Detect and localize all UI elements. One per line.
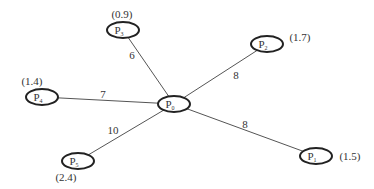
nodes-group: P0P1P2P3P4P5 [26, 22, 332, 169]
node-p2: P2 [251, 36, 283, 52]
node-p4: P4 [26, 89, 58, 105]
node-weight-p3: (0.9) [111, 8, 132, 21]
edge-p0-p2 [174, 44, 267, 104]
node-weight-p2: (1.7) [289, 31, 310, 44]
edge-weight-label: 8 [233, 69, 239, 81]
edge-p0-p3 [123, 30, 174, 104]
node-weight-p5: (2.4) [55, 171, 76, 184]
node-weight-p4: (1.4) [21, 75, 42, 88]
node-p0: P0 [158, 96, 190, 112]
edge-weight-label: 6 [129, 49, 135, 61]
node-p5: P5 [62, 153, 94, 169]
edge-weight-label: 10 [108, 124, 120, 136]
edge-p0-p1 [174, 104, 316, 156]
node-weight-p1: (1.5) [339, 150, 360, 163]
node-p1: P1 [300, 148, 332, 164]
star-graph-diagram: 886710 P0P1P2P3P4P5 (1.5)(1.7)(0.9)(1.4)… [0, 0, 374, 189]
edge-weight-label: 7 [100, 88, 106, 100]
edge-weight-label: 8 [242, 118, 248, 130]
edge-p0-p4 [42, 97, 174, 104]
edge-p0-p5 [78, 104, 174, 161]
node-p3: P3 [107, 22, 139, 38]
